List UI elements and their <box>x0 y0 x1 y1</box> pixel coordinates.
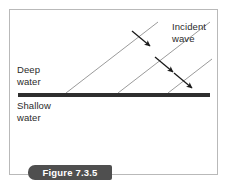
direction-arrow-2 <box>155 57 173 72</box>
figure-caption-banner: Figure 7.3.5 <box>28 165 112 180</box>
figure-container: Deep water Shallow water Incident wave F… <box>0 0 229 192</box>
incident-wave-label: Incident wave <box>172 21 206 44</box>
deep-water-label: Deep water <box>17 64 41 87</box>
shallow-water-label: Shallow water <box>17 100 51 123</box>
direction-arrow-1 <box>132 31 150 46</box>
incident-ray-1 <box>66 22 158 93</box>
figure-caption-text: Figure 7.3.5 <box>42 167 97 178</box>
incident-ray-3 <box>168 59 212 93</box>
